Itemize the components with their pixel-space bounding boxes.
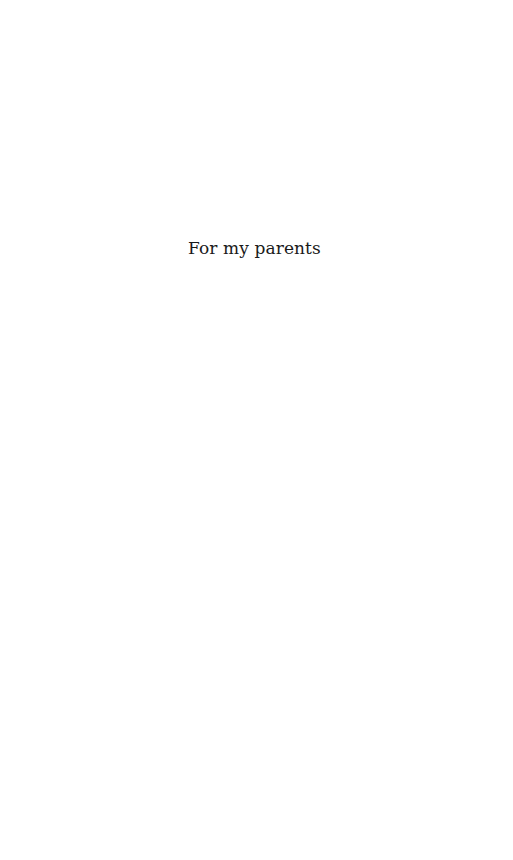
dedication-text: For my parents xyxy=(188,237,321,259)
book-page: For my parents xyxy=(0,0,513,860)
